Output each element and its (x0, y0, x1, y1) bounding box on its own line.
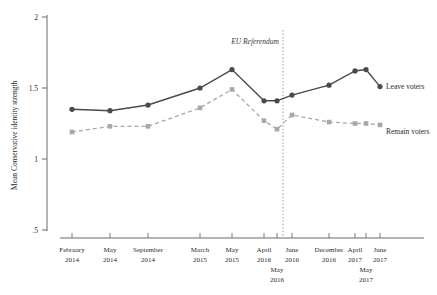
x-tick-label-month: May (104, 246, 117, 254)
data-point-remain (70, 130, 75, 135)
x-tick-label-month-secondary: May (360, 266, 373, 274)
eu-referendum-annotation: EU Referendum (230, 37, 279, 46)
x-tick-label-year: 2017 (373, 256, 388, 264)
x-axis-tick-labels: February2014May2014September2014March201… (59, 246, 387, 284)
data-point-leave (69, 107, 74, 112)
data-point-leave (363, 67, 368, 72)
data-point-leave (274, 98, 279, 103)
y-tick-label-1-5: 1.5 (29, 84, 39, 93)
x-tick-label-month-secondary: May (271, 266, 284, 274)
data-point-remain (275, 127, 280, 132)
x-tick-label-year: 2014 (103, 256, 118, 264)
data-point-leave (289, 93, 294, 98)
x-tick-label-month: April (257, 246, 272, 254)
x-tick-label-month: June (286, 246, 299, 254)
data-point-remain (353, 121, 358, 126)
leave-voters-label: Leave voters (386, 82, 425, 91)
data-point-leave (261, 98, 266, 103)
data-point-remain (364, 121, 369, 126)
x-tick-label-month: May (226, 246, 239, 254)
x-tick-label-year: 2017 (348, 256, 363, 264)
data-point-leave (229, 67, 234, 72)
x-tick-label-year: 2016 (322, 256, 337, 264)
data-point-leave (377, 84, 382, 89)
x-tick-label-month: June (374, 246, 387, 254)
data-point-remain (378, 123, 383, 128)
data-point-leave (107, 108, 112, 113)
leave-voters-markers (69, 67, 382, 113)
data-point-remain (290, 113, 295, 118)
remain-voters-markers (70, 87, 383, 134)
leave-voters-line (72, 70, 380, 111)
data-point-leave (145, 102, 150, 107)
data-point-remain (327, 120, 332, 125)
x-axis-ticks (72, 233, 380, 238)
x-tick-label-month: February (59, 246, 85, 254)
x-tick-label-month: April (348, 246, 363, 254)
y-tick-label-2: 2 (34, 13, 38, 22)
y-tick-label-0-5: .5 (32, 226, 38, 235)
x-tick-label-year-secondary: 2016 (270, 276, 285, 284)
remain-voters-label: Remain voters (386, 127, 430, 136)
data-point-remain (146, 124, 151, 129)
x-tick-label-year: 2014 (141, 256, 156, 264)
x-tick-label-month: December (315, 246, 344, 254)
x-tick-label-year: 2014 (65, 256, 80, 264)
data-point-remain (230, 87, 235, 92)
data-point-leave (326, 83, 331, 88)
data-point-leave (197, 85, 202, 90)
x-tick-label-year: 2015 (225, 256, 240, 264)
x-tick-label-month: March (191, 246, 210, 254)
y-axis-title: Mean Conservative identity strength (10, 80, 19, 190)
data-point-leave (352, 68, 357, 73)
x-tick-label-year-secondary: 2017 (359, 276, 374, 284)
x-tick-label-year: 2016 (285, 256, 300, 264)
x-tick-label-year: 2016 (257, 256, 272, 264)
chart-container: 2 1.5 1 .5 Mean Conservative identity st… (0, 0, 437, 295)
x-tick-label-year: 2015 (193, 256, 208, 264)
y-axis-ticks (42, 17, 47, 230)
line-chart: 2 1.5 1 .5 Mean Conservative identity st… (0, 0, 437, 295)
data-point-remain (108, 124, 113, 129)
y-tick-label-1: 1 (34, 155, 38, 164)
data-point-remain (198, 106, 203, 111)
x-tick-label-month: September (133, 246, 164, 254)
data-point-remain (262, 118, 267, 123)
remain-voters-line (72, 89, 380, 132)
